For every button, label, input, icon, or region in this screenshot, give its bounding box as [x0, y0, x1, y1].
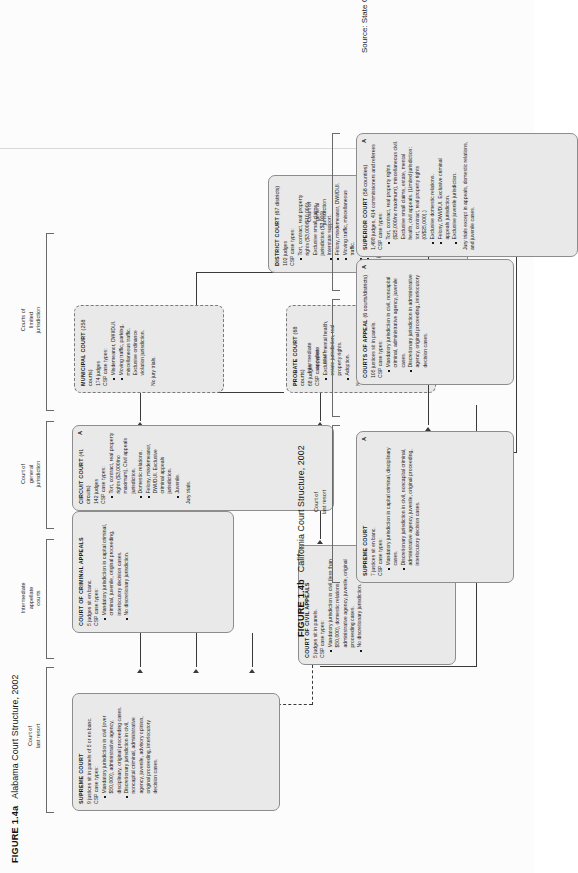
list-item: Mandatory jurisdiction in capital crimin… — [101, 518, 123, 620]
court-composition: 5 judges sit in panels. — [312, 552, 319, 658]
tier-label-california-intermediate: Intermediateappellatecourt — [306, 325, 329, 391]
list-item: Moving traffic, miscellaneous traffic. — [342, 182, 356, 260]
case-type-list: Misdemeanor, DWI/DUI. Moving traffic, pa… — [110, 312, 146, 386]
court-box-alabama-municipal-court[interactable]: MUNICIPAL COURT (258 courts) 174 judges … — [74, 305, 224, 393]
court-composition: 142 judges — [93, 432, 100, 504]
court-footer: Jury trials except in appeals, domestic … — [462, 140, 476, 250]
connector-probate-vertical — [320, 666, 476, 667]
court-name: COURTS OF APPEAL (6 courts/districts) — [362, 266, 369, 378]
figure-title-alabama: FIGURE 1.4aAlabama Court Structure, 2002 — [10, 674, 20, 863]
case-types-label: CSP case types: — [93, 700, 100, 804]
figure-title-california: FIGURE 1.4bCalifornia Court Structure, 2… — [296, 445, 306, 637]
connector-civilappeals-to-supreme — [252, 633, 253, 667]
court-box-alabama-supreme-court[interactable]: SUPREME COURT 9 justices sit in panels o… — [72, 693, 280, 811]
arrow-to-supreme-2 — [193, 669, 199, 673]
bracket-alabama-limited — [46, 233, 54, 411]
case-types-label: CSP case types: — [377, 140, 384, 250]
bracket-alabama-last-resort — [46, 667, 54, 813]
case-types-label: CSP case types: — [377, 266, 384, 378]
court-composition: 5 judges sit en banc. — [86, 518, 93, 626]
court-box-california-courts-of-appeal[interactable]: A COURTS OF APPEAL (6 courts/districts) … — [356, 259, 514, 385]
court-name: SUPERIOR COURT (58 counties) — [362, 140, 369, 250]
list-item: Discretionary jurisdiction in civil, non… — [400, 438, 422, 570]
figure-number-california: FIGURE 1.4b — [296, 579, 306, 637]
court-composition: 7 justices sit en banc. — [370, 438, 377, 576]
connector-district-to-circuit — [320, 393, 321, 421]
case-types-label: CSP case types: — [100, 432, 107, 504]
case-type-list: Mandatory jurisdiction in capital crimin… — [101, 518, 130, 626]
list-item: Mandatory jurisdiction in civil, noncapi… — [385, 266, 407, 372]
bracket-california-intermediate — [332, 299, 340, 417]
court-composition: 174 judges — [95, 312, 102, 386]
court-name: DISTRICT COURT (67 districts) — [274, 182, 281, 266]
list-item: Misdemeanor, DWI/DUI. — [110, 312, 117, 380]
court-footer: No jury trials. — [150, 312, 157, 386]
tier-label-alabama-general: Court ofgeneraljurisdiction — [20, 441, 43, 507]
case-type-list: Mandatory jurisdiction in civil (over $5… — [101, 700, 159, 804]
court-name: COURT OF CRIMINAL APPEALS — [78, 518, 85, 626]
court-footer: Jury trials. — [185, 432, 192, 504]
arrow-to-supreme-1 — [137, 669, 143, 673]
court-box-alabama-circuit-court[interactable]: A CIRCUIT COURT (41 circuits) 142 judges… — [72, 425, 334, 511]
court-name: CIRCUIT COURT (41 circuits) — [78, 432, 92, 504]
bracket-alabama-general — [46, 421, 54, 529]
court-composition: 102 judges — [282, 182, 289, 266]
list-item: Juvenile. — [174, 432, 181, 498]
tier-label-california-general: Court ofgeneraljurisdiction — [306, 179, 329, 245]
case-types-label: CSP case types: — [377, 438, 384, 576]
court-box-california-superior-court[interactable]: A SUPERIOR COURT (58 counties) 1,498 jud… — [356, 133, 578, 257]
list-item: Discretionary jurisdiction in civil, non… — [123, 700, 159, 798]
court-box-alabama-court-of-criminal-appeals[interactable]: COURT OF CRIMINAL APPEALS 5 judges sit e… — [72, 511, 234, 633]
case-type-list: Tort, contract, real property rights ($2… — [385, 140, 458, 250]
list-item: Discretionary jurisdiction in administra… — [407, 266, 429, 372]
arrow-to-supreme-3 — [249, 669, 255, 673]
case-types-label: CSP case types: — [319, 552, 326, 658]
tier-label-alabama-intermediate: Intermediateappellatecourts — [20, 565, 43, 631]
court-box-california-supreme-court[interactable]: A SUPREME COURT 7 justices sit en banc. … — [356, 431, 514, 583]
connector-supreme-to-civilappeals-dashed-h — [312, 665, 313, 705]
figure-caption-alabama: Alabama Court Structure, 2002 — [10, 674, 20, 798]
court-composition: 9 justices sit in panels of 5 or en banc… — [86, 700, 93, 804]
list-item: Exclusive juvenile jurisdiction. — [451, 140, 458, 244]
tier-label-alabama-last-resort: Court oflast resort — [27, 705, 42, 767]
list-item: Adoption. — [344, 312, 351, 380]
list-item: Mandatory jurisdiction in capital crimin… — [385, 438, 399, 570]
list-item: Moving traffic, parking, miscellaneous t… — [118, 312, 147, 380]
list-item: Tort, contract, real property rights ($2… — [385, 140, 428, 244]
case-types-label: CSP case types: — [102, 312, 109, 386]
case-type-list: Mandatory jurisdiction in capital crimin… — [385, 438, 421, 576]
list-item: Domestic relations. — [137, 432, 144, 498]
arrow-to-civilappeals — [317, 540, 323, 544]
connector-appeal-to-supreme — [428, 385, 429, 425]
case-types-label: CSP case types: — [289, 182, 296, 266]
list-item: Mandatory jurisdiction in civil (over $5… — [101, 700, 123, 798]
bracket-california-last-resort — [332, 425, 340, 583]
court-name: MUNICIPAL COURT (258 courts) — [80, 312, 94, 386]
list-item: Felony, DWI/DUI. Exclusive criminal appe… — [437, 140, 451, 244]
court-name: SUPREME COURT — [362, 438, 369, 576]
list-item: Exclusive domestic relations. — [429, 140, 436, 244]
case-type-list: Mandatory jurisdiction in civil, noncapi… — [385, 266, 429, 378]
connector-district-vertical-2 — [196, 272, 276, 273]
list-item: Tort, contract, real property rights ($3… — [108, 432, 137, 498]
figure-caption-california: California Court Structure, 2002 — [296, 445, 306, 572]
bracket-california-general — [332, 133, 340, 291]
case-type-list: Tort, contract, real property rights ($3… — [108, 432, 181, 504]
footnote-marker-a: A — [77, 431, 83, 435]
footnote-marker-a: A — [361, 139, 367, 143]
list-item: No discretionary jurisdiction. — [123, 518, 130, 620]
figure-number-alabama: FIGURE 1.4a — [10, 806, 20, 863]
court-composition: 1,498 judges, 414 commissioners and refe… — [370, 140, 377, 250]
case-types-label: CSP case types: — [93, 518, 100, 626]
list-item: Felony, misdemeanor, DWI/DUI. Exclusive … — [145, 432, 174, 498]
court-name: PROBATE COURT (68 courts) — [292, 312, 306, 386]
footnote-marker-a: A — [361, 265, 367, 269]
bracket-alabama-intermediate — [46, 539, 54, 659]
connector-municipal-to-circuit — [140, 393, 141, 421]
source-note: Source: State Court Caseload Statistics,… — [360, 0, 369, 53]
court-composition: 105 justices sit in panels. — [370, 266, 377, 378]
court-name: SUPREME COURT — [78, 700, 85, 804]
footnote-marker-a: A — [361, 437, 367, 441]
